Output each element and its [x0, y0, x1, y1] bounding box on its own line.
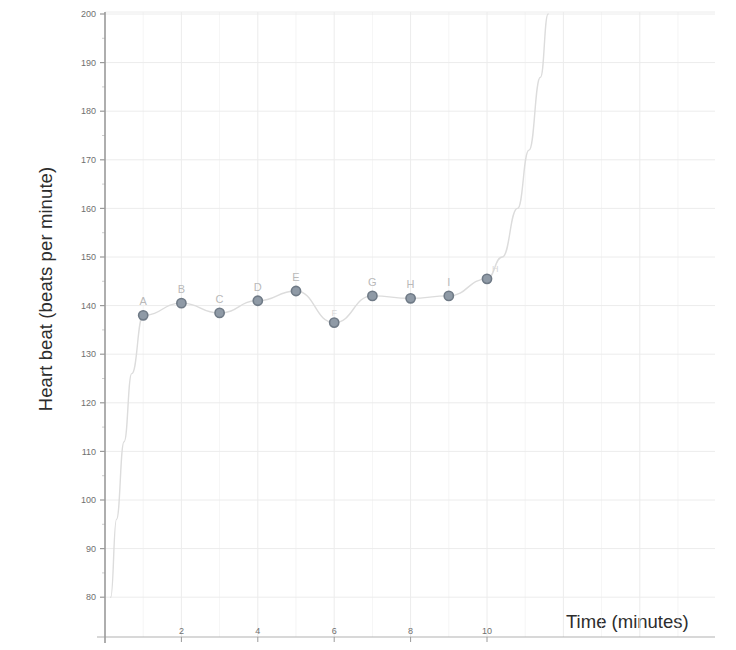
data-point-labels: ABCDEFGHIH	[140, 264, 499, 318]
y-axis-ticks: 8090100110120130140150160170180190200	[81, 9, 105, 602]
line-chart-plot: 8090100110120130140150160170180190200 24…	[0, 0, 736, 650]
x-axis-ticks: 246810	[179, 626, 492, 642]
y-tick-label: 110	[82, 447, 96, 457]
data-point-label: H	[492, 264, 499, 274]
y-tick-label: 150	[81, 252, 96, 262]
data-point-label: I	[447, 276, 450, 288]
data-point-marker	[253, 296, 262, 305]
y-tick-label: 170	[81, 155, 96, 165]
y-tick-label: 100	[81, 495, 96, 505]
y-tick-label: 190	[81, 58, 96, 68]
y-tick-label: 160	[81, 204, 96, 214]
data-point-marker	[330, 318, 339, 327]
horizontal-gridlines	[105, 12, 715, 597]
data-point-label: D	[254, 281, 262, 293]
data-point-marker	[291, 286, 300, 295]
x-tick-label: 4	[255, 626, 260, 636]
y-tick-label: 180	[81, 106, 96, 116]
data-point-marker	[215, 308, 224, 317]
data-point-label: B	[178, 283, 185, 295]
data-point-marker	[406, 294, 415, 303]
y-tick-label: 200	[81, 9, 96, 19]
data-point-marker	[482, 274, 491, 283]
data-point-label: E	[292, 271, 299, 283]
data-point-marker	[368, 291, 377, 300]
data-point-marker	[139, 311, 148, 320]
y-tick-label: 80	[86, 592, 96, 602]
chart-canvas: Heart beat (beats per minute) Time (minu…	[0, 0, 736, 650]
data-point-label: H	[407, 278, 415, 290]
x-tick-label: 10	[482, 626, 492, 636]
data-point-label: G	[368, 276, 377, 288]
x-tick-label: 8	[408, 626, 413, 636]
data-point-label: A	[140, 295, 148, 307]
data-point-marker	[177, 299, 186, 308]
vertical-gridlines	[143, 12, 678, 637]
y-tick-label: 130	[81, 349, 96, 359]
x-tick-label: 6	[332, 626, 337, 636]
data-point-marker	[444, 291, 453, 300]
y-tick-label: 90	[86, 544, 96, 554]
y-tick-label: 120	[81, 398, 96, 408]
data-point-label: C	[216, 293, 224, 305]
data-points	[139, 274, 492, 327]
x-tick-label: 2	[179, 626, 184, 636]
data-point-label: F	[331, 308, 337, 318]
y-tick-label: 140	[81, 301, 96, 311]
